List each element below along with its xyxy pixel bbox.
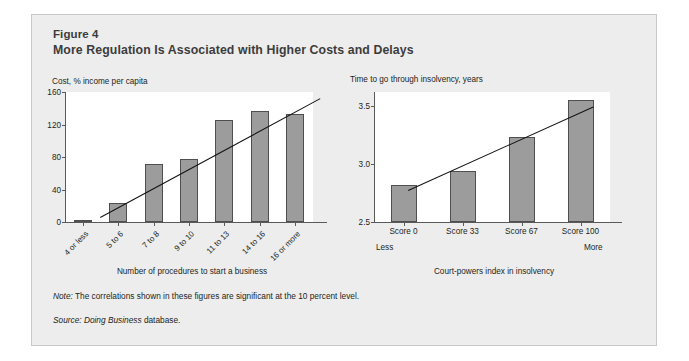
insolvency-x-tickmark (404, 223, 405, 226)
cost-y-tick: 80 (39, 153, 61, 162)
insolvency-axis-more-label: More (584, 243, 603, 252)
cost-x-tickmark (118, 223, 119, 226)
insolvency-y-axis (374, 92, 375, 223)
insolvency-x-tick: Score 0 (389, 227, 417, 236)
insolvency-x-tickmark (463, 223, 464, 226)
insolvency-x-tick: Score 33 (446, 227, 479, 236)
bar (286, 114, 304, 222)
figure-note-text: The correlations shown in these figures … (75, 291, 359, 301)
bar (215, 120, 233, 222)
figure-source-text: database. (144, 315, 180, 325)
insolvency-x-tick: Score 100 (562, 227, 599, 236)
cost-x-axis (65, 222, 327, 223)
insolvency-x-axis-title: Court-powers index in insolvency (434, 267, 554, 276)
cost-chart-ylabel: Cost, % income per capita (52, 77, 148, 86)
bar (568, 100, 594, 222)
figure-source-italic: Doing Business (84, 315, 142, 325)
insolvency-x-tickmark (522, 223, 523, 226)
figure-note-label: Note: (53, 291, 73, 301)
cost-x-tickmark (295, 223, 296, 226)
cost-x-tickmark (154, 223, 155, 226)
cost-y-tick: 160 (39, 88, 61, 97)
insolvency-y-tickmark (371, 164, 374, 165)
figure-panel: Figure 4 More Regulation Is Associated w… (31, 14, 657, 346)
cost-y-tickmark (62, 190, 65, 191)
figure-note: Note: The correlations shown in these fi… (53, 291, 359, 301)
cost-y-tickmark (62, 157, 65, 158)
cost-x-tickmark (260, 223, 261, 226)
insolvency-x-tickmark (581, 223, 582, 226)
insolvency-chart-ylabel: Time to go through insolvency, years (350, 75, 483, 84)
cost-x-tickmark (224, 223, 225, 226)
cost-x-axis-title: Number of procedures to start a business (117, 267, 267, 276)
cost-y-tick: 40 (39, 185, 61, 194)
bar (509, 137, 535, 222)
bar (109, 203, 127, 223)
cost-y-tickmark (62, 125, 65, 126)
cost-y-tickmark (62, 222, 65, 223)
figure-source: Source: Doing Business database. (53, 315, 180, 325)
cost-x-tickmark (83, 223, 84, 226)
cost-y-tick: 120 (39, 120, 61, 129)
insolvency-y-tick: 3.0 (348, 159, 370, 168)
bar (450, 171, 476, 222)
bar (145, 164, 163, 223)
cost-chart: Cost, % income per capita 04080120160 4 … (32, 15, 352, 305)
insolvency-y-tick: 3.5 (348, 101, 370, 110)
insolvency-y-tick: 2.5 (348, 218, 370, 227)
insolvency-y-tickmark (371, 106, 374, 107)
insolvency-x-tick: Score 67 (505, 227, 538, 236)
cost-y-tick: 0 (39, 218, 61, 227)
cost-x-tickmark (189, 223, 190, 226)
insolvency-y-tickmark (371, 222, 374, 223)
bar (391, 185, 417, 222)
insolvency-axis-less-label: Less (376, 243, 393, 252)
cost-y-tickmark (62, 92, 65, 93)
insolvency-chart: Time to go through insolvency, years 2.5… (342, 15, 658, 305)
insolvency-x-axis (374, 222, 622, 223)
figure-source-label: Source: (53, 315, 82, 325)
bar (74, 220, 92, 222)
cost-y-axis (65, 92, 66, 223)
